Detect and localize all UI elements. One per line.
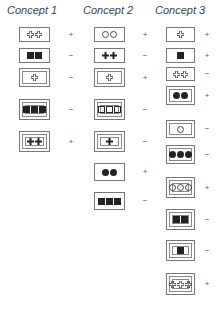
concept-1-example-5 (19, 131, 50, 152)
negative-label: − (203, 246, 211, 255)
outline-cross-icon (173, 71, 180, 78)
outline-square-icon (106, 106, 113, 113)
solid-cross-icon (27, 138, 34, 145)
solid-cross-icon (35, 138, 42, 145)
solid-cross-group (106, 138, 113, 145)
solid-square-icon (114, 198, 121, 205)
solid-circle-icon (177, 151, 184, 158)
outline-circle-icon (102, 31, 109, 38)
positive-label: + (203, 279, 211, 288)
concept-1-example-2 (19, 48, 50, 63)
outline-square-icon (98, 106, 105, 113)
outline-cross-group (106, 74, 113, 81)
concept-2-example-7 (94, 192, 125, 210)
positive-label: + (141, 30, 149, 39)
outline-cross-icon (169, 281, 176, 288)
solid-square-group (27, 52, 42, 59)
solid-cross-group (102, 52, 117, 59)
solid-circle-icon (181, 92, 188, 99)
concept-3-example-6 (166, 145, 195, 164)
solid-square-icon (35, 52, 42, 59)
solid-square-group (98, 198, 121, 205)
negative-label: − (67, 73, 75, 82)
solid-square-group (177, 247, 184, 254)
outline-circle-icon (177, 126, 184, 133)
negative-label: − (203, 124, 211, 133)
solid-square-group (173, 216, 188, 223)
positive-label: + (203, 91, 211, 100)
solid-circle-icon (185, 151, 192, 158)
solid-square-icon (177, 52, 184, 59)
outline-cross-icon (106, 74, 113, 81)
concept-2-example-5 (94, 131, 125, 152)
negative-label: − (141, 51, 149, 60)
outline-circle-group (102, 31, 117, 38)
outline-cross-icon (181, 71, 188, 78)
solid-square-icon (106, 198, 113, 205)
positive-label: + (141, 73, 149, 82)
solid-square-icon (39, 106, 46, 113)
negative-label: − (203, 215, 211, 224)
concept-1-example-4 (19, 99, 50, 120)
concept-3-example-10 (166, 273, 195, 295)
concept-2-example-1 (94, 27, 125, 42)
outline-circle-icon (185, 184, 192, 191)
solid-square-icon (177, 247, 184, 254)
outline-cross-icon (35, 31, 42, 38)
outline-circle-group (177, 126, 184, 133)
outline-cross-group (27, 31, 42, 38)
concept-2-example-6 (94, 163, 125, 181)
solid-square-icon (31, 106, 38, 113)
solid-cross-icon (110, 52, 117, 59)
outline-circle-icon (110, 31, 117, 38)
solid-cross-icon (102, 52, 109, 59)
negative-label: − (203, 150, 211, 159)
concept-2-example-2 (94, 48, 125, 63)
concept-3-example-5 (166, 120, 195, 138)
negative-label: − (67, 51, 75, 60)
solid-square-group (23, 106, 46, 113)
concept-3-example-4 (166, 86, 195, 105)
negative-label: − (67, 105, 75, 114)
outline-cross-icon (185, 281, 192, 288)
outline-cross-group (177, 31, 184, 38)
outline-cross-icon (27, 31, 34, 38)
concept-3-example-8 (166, 209, 195, 230)
concept-1-example-3 (19, 68, 50, 87)
positive-label: + (67, 137, 75, 146)
positive-label: + (203, 51, 211, 60)
outline-circle-icon (177, 184, 184, 191)
positive-label: + (203, 30, 211, 39)
negative-label: − (141, 105, 149, 114)
outline-cross-group (173, 71, 188, 78)
solid-square-icon (27, 52, 34, 59)
outline-cross-group (31, 74, 38, 81)
outline-cross-icon (177, 31, 184, 38)
solid-circle-group (169, 151, 192, 158)
outline-circle-icon (169, 184, 176, 191)
concept-2-example-3 (94, 68, 125, 87)
solid-square-group (177, 52, 184, 59)
solid-square-icon (181, 216, 188, 223)
solid-square-icon (173, 216, 180, 223)
concept-3-example-9 (166, 240, 195, 261)
positive-label: + (141, 167, 149, 176)
column-title-concept-2: Concept 2 (83, 4, 133, 16)
outline-cross-icon (177, 281, 184, 288)
outline-circle-group (169, 184, 192, 191)
solid-circle-group (173, 92, 188, 99)
outline-square-icon (114, 106, 121, 113)
column-title-concept-3: Concept 3 (155, 4, 205, 16)
concept-3-example-7 (166, 177, 195, 198)
positive-label: + (67, 30, 75, 39)
concept-1-example-1 (19, 27, 50, 42)
solid-cross-icon (106, 138, 113, 145)
solid-square-icon (23, 106, 30, 113)
concept-3-example-2 (166, 48, 195, 63)
negative-label: − (203, 69, 211, 78)
positive-label: + (203, 183, 211, 192)
solid-circle-icon (102, 169, 109, 176)
negative-label: − (141, 137, 149, 146)
column-title-concept-1: Concept 1 (7, 4, 57, 16)
solid-square-icon (98, 198, 105, 205)
